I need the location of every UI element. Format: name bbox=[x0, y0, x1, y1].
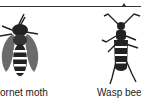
wasp-beetle-label: Wasp bee bbox=[97, 87, 141, 99]
hornet-moth-label: ornet moth bbox=[0, 87, 48, 99]
bracket-point bbox=[122, 3, 126, 6]
wasp-beetle-icon bbox=[100, 8, 141, 86]
bracket-line bbox=[0, 6, 141, 7]
hornet-moth-icon bbox=[0, 12, 45, 86]
